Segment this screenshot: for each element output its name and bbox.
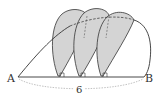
length-label: 6 [76,84,82,95]
outer-curve-right [134,20,151,77]
point-label-A: A [6,72,16,85]
point-label-B: B [145,72,153,85]
geometry-diagram: A B 6 [0,0,157,99]
